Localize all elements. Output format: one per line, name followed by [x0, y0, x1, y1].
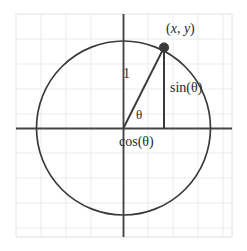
paren-close: ) [190, 21, 195, 36]
point-marker-dot [159, 43, 168, 52]
sine-label: sin(θ) [170, 81, 202, 95]
unit-circle-diagram: (x, y) 1 θ sin(θ) cos(θ) [0, 0, 247, 251]
radius-segment [124, 48, 165, 129]
point-coordinates-label: (x, y) [166, 22, 195, 36]
theta-angle-label: θ [136, 108, 142, 121]
cosine-label: cos(θ) [119, 135, 154, 149]
radius-length-label: 1 [123, 67, 130, 81]
diagram-canvas [0, 0, 247, 251]
coord-comma: , [177, 21, 184, 36]
